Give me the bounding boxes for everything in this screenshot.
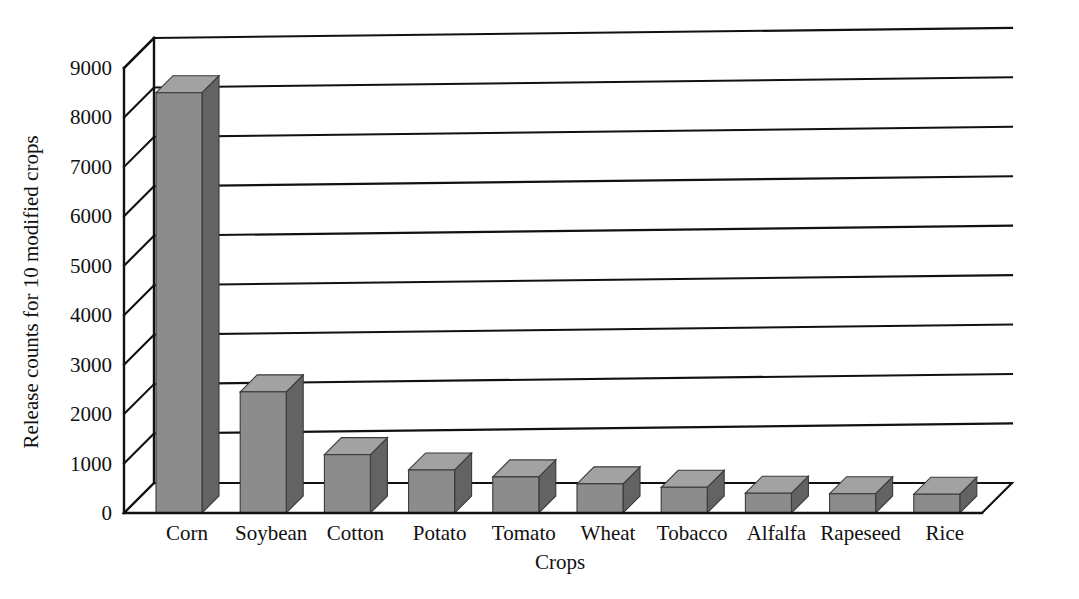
bar-front-face	[156, 93, 202, 513]
bar-front-face	[745, 493, 791, 513]
bar-front-face	[240, 392, 286, 513]
y-axis-tick-labels: 0100020003000400050006000700080009000	[70, 56, 112, 525]
x-axis-tick-label: Potato	[413, 521, 467, 545]
y-tick-depth-line	[124, 87, 154, 117]
y-tick-depth-line	[124, 483, 154, 513]
y-axis-tick-label: 5000	[70, 254, 112, 278]
bar-side-face	[286, 375, 303, 513]
x-axis-tick-labels: CornSoybeanCottonPotatoTomatoWheatTobacc…	[166, 521, 964, 545]
x-axis-tick-label: Soybean	[235, 521, 308, 545]
bars	[156, 76, 977, 513]
gridline	[154, 275, 1012, 285]
y-axis-tick-label: 2000	[70, 402, 112, 426]
gridline	[154, 28, 1012, 38]
y-tick-depth-line	[124, 236, 154, 266]
y-axis-tick-label: 8000	[70, 105, 112, 129]
bar-front-face	[324, 455, 370, 513]
bar	[661, 470, 724, 513]
x-axis-tick-label: Rice	[926, 521, 964, 545]
bar-front-face	[914, 494, 960, 513]
bar-front-face	[661, 487, 707, 513]
bar-front-face	[409, 470, 455, 513]
bar	[577, 467, 640, 513]
x-axis-tick-label: Tobacco	[657, 521, 728, 545]
y-axis-tick-label: 4000	[70, 303, 112, 327]
y-axis-line	[124, 38, 154, 513]
bar	[745, 476, 808, 513]
y-tick-depth-line	[124, 38, 154, 68]
y-axis-tick-label: 9000	[70, 56, 112, 80]
y-axis-tick-label: 1000	[70, 452, 112, 476]
y-axis-tick-label: 7000	[70, 155, 112, 179]
y-axis-tick-label: 3000	[70, 353, 112, 377]
bar-front-face	[493, 477, 539, 513]
y-axis-tick-label: 6000	[70, 204, 112, 228]
y-tick-depth-line	[124, 335, 154, 365]
bar-chart: 0100020003000400050006000700080009000 Co…	[0, 0, 1079, 599]
bar	[240, 375, 303, 513]
gridline	[154, 226, 1012, 236]
x-axis-title: Crops	[535, 550, 585, 574]
chart-canvas: 0100020003000400050006000700080009000 Co…	[0, 0, 1079, 599]
y-tick-depth-line	[124, 186, 154, 216]
bar-front-face	[830, 494, 876, 513]
gridline	[154, 176, 1012, 186]
bar	[493, 460, 556, 513]
x-axis-tick-label: Rapeseed	[820, 521, 901, 545]
x-axis-tick-label: Cotton	[327, 521, 385, 545]
y-tick-depth-line	[124, 137, 154, 167]
bar	[324, 438, 387, 513]
x-axis-tick-label: Wheat	[581, 521, 636, 545]
bar-front-face	[577, 484, 623, 513]
gridline	[154, 325, 1012, 335]
gridline	[154, 77, 1012, 87]
bar	[409, 453, 472, 513]
y-tick-depth-line	[124, 384, 154, 414]
y-tick-depth-line	[124, 285, 154, 315]
y-axis-tick-label: 0	[102, 501, 113, 525]
x-axis-tick-label: Corn	[166, 521, 209, 545]
y-axis-title: Release counts for 10 modified crops	[19, 135, 43, 448]
x-axis-tick-label: Alfalfa	[747, 521, 807, 545]
x-axis-tick-label: Tomato	[492, 521, 556, 545]
y-tick-depth-line	[124, 434, 154, 464]
bar	[156, 76, 219, 513]
bar-side-face	[202, 76, 219, 513]
gridline	[154, 127, 1012, 137]
